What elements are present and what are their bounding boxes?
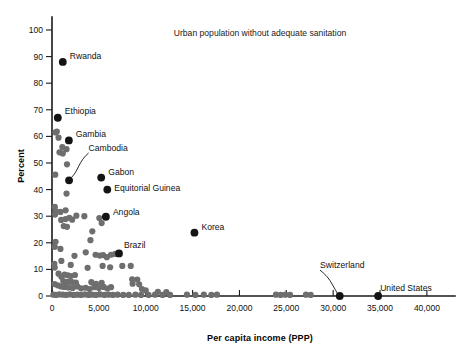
data-point (55, 135, 61, 141)
data-point (57, 246, 63, 252)
data-point (119, 263, 125, 269)
data-point (120, 292, 126, 298)
data-point-label-gabon: Gabon (108, 167, 134, 177)
leader-line-switzerland (320, 270, 337, 293)
data-point (308, 292, 314, 298)
x-tick-label-35,000: 35,000 (367, 303, 393, 313)
data-point (68, 262, 74, 268)
x-axis-title: Per capita income (PPP) (207, 333, 313, 343)
data-point (214, 292, 220, 298)
data-point-label-cambodia: Cambodia (89, 143, 128, 153)
data-point-rwanda (59, 58, 67, 66)
data-point (54, 129, 60, 135)
data-point-label-equitorial-guinea: Equitorial Guinea (114, 183, 180, 193)
data-point (145, 292, 151, 298)
data-point-label-switzerland: Switzerland (320, 260, 365, 270)
x-tick-label-15,000: 15,000 (180, 303, 206, 313)
data-point-label-gambia: Gambia (76, 129, 106, 139)
data-point-label-rwanda: Rwanda (70, 51, 102, 61)
data-point (108, 284, 114, 290)
x-tick-label-30,000: 30,000 (320, 303, 346, 313)
data-point (287, 292, 293, 298)
data-point (115, 292, 121, 298)
data-point (130, 281, 136, 287)
data-point (62, 207, 68, 213)
data-point (132, 292, 138, 298)
data-point (167, 292, 173, 298)
data-point-label-united-states: United States (380, 283, 432, 293)
data-point-angola (102, 213, 110, 221)
unlabeled-data-points (50, 129, 313, 299)
data-point (126, 292, 132, 298)
y-tick-label-30: 30 (34, 211, 44, 221)
y-tick-label-70: 70 (34, 105, 44, 115)
data-point (192, 292, 198, 298)
data-point-gambia (65, 136, 73, 144)
data-point-ethiopia (54, 114, 62, 122)
data-point (184, 292, 190, 298)
chart-canvas: Urban population without adequate sanita… (0, 0, 464, 349)
data-point (60, 150, 66, 156)
data-point-label-brazil: Brazil (124, 240, 146, 250)
y-tick-label-60: 60 (34, 131, 44, 141)
data-point (83, 249, 89, 255)
x-tick-label-20,000: 20,000 (226, 303, 252, 313)
data-point (64, 224, 70, 230)
data-point (52, 211, 58, 217)
y-tick-label-80: 80 (34, 78, 44, 88)
data-point-cambodia (65, 176, 73, 184)
data-point-gabon (97, 174, 105, 182)
x-tick-label-25,000: 25,000 (273, 303, 299, 313)
data-point (85, 265, 91, 271)
y-tick-label-10: 10 (34, 264, 44, 274)
y-tick-label-20: 20 (34, 238, 44, 248)
data-point (64, 161, 70, 167)
data-point (52, 244, 58, 250)
x-tick-label-0: 0 (50, 303, 55, 313)
leader-line-cambodia (72, 153, 89, 177)
data-point (69, 217, 75, 223)
data-point (52, 264, 58, 270)
data-point (107, 264, 113, 270)
data-point (138, 292, 144, 298)
scatter-chart-figure: Urban population without adequate sanita… (0, 0, 464, 349)
data-point (87, 237, 93, 243)
y-tick-label-40: 40 (34, 185, 44, 195)
data-point (72, 272, 78, 278)
y-axis: 0102030405060708090100 (29, 25, 52, 301)
data-point-label-ethiopia: Ethiopia (65, 106, 96, 116)
y-tick-label-100: 100 (29, 25, 43, 35)
x-tick-label-40,000: 40,000 (414, 303, 440, 313)
data-point (99, 220, 105, 226)
y-tick-label-90: 90 (34, 52, 44, 62)
data-point (63, 190, 69, 196)
data-point-brazil (115, 250, 123, 258)
data-point (100, 263, 106, 269)
data-point (52, 172, 58, 178)
data-point (71, 253, 77, 259)
data-point (89, 228, 95, 234)
data-point (58, 258, 64, 264)
data-point-united-states (374, 292, 382, 300)
chart-title-group: Urban population without adequate sanita… (174, 28, 347, 38)
data-point-equitorial-guinea (103, 186, 111, 194)
data-point-switzerland (336, 292, 344, 300)
data-point-korea (191, 229, 199, 237)
data-point-label-korea: Korea (201, 222, 224, 232)
data-point (152, 292, 158, 298)
y-tick-label-0: 0 (38, 291, 43, 301)
data-point (159, 292, 165, 298)
y-tick-label-50: 50 (34, 158, 44, 168)
x-tick-label-10,000: 10,000 (133, 303, 159, 313)
chart-title: Urban population without adequate sanita… (174, 28, 347, 38)
data-point (201, 292, 207, 298)
data-point (81, 213, 87, 219)
y-axis-title: Percent (16, 149, 26, 183)
data-point (128, 263, 134, 269)
data-point (208, 292, 214, 298)
data-point-label-angola: Angola (113, 207, 140, 217)
x-tick-label-5,000: 5,000 (88, 303, 110, 313)
